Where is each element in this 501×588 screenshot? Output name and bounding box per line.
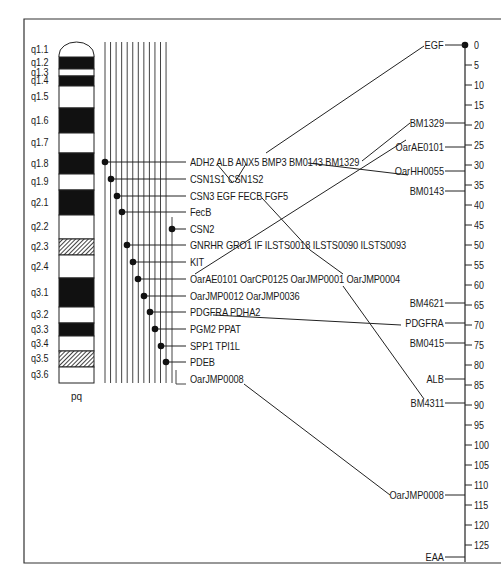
scale-tick-label: 95 — [474, 419, 484, 431]
scale-tick-label: 60 — [474, 279, 484, 291]
chromosome-band — [59, 153, 94, 174]
scale-marker-label: EAA — [426, 551, 444, 563]
chromosome-band — [59, 190, 94, 215]
chromosome-band — [59, 76, 94, 86]
gene-group-label: OarJMP0012 OarJMP0036 — [190, 290, 300, 302]
band-label: q1.6 — [31, 115, 49, 127]
locus-dot — [114, 193, 121, 200]
band-label: q2.1 — [31, 197, 49, 209]
chromosome-band — [59, 278, 94, 307]
locus-dot — [124, 242, 131, 249]
chromosome-band — [59, 215, 94, 239]
scale-marker-label: OarAE0101 — [396, 141, 444, 153]
scale-tick-label: 115 — [474, 499, 488, 511]
scale-marker-label: BM0415 — [410, 337, 444, 349]
scale-tick-label: 50 — [474, 239, 484, 251]
chromosome-band — [59, 108, 94, 133]
locus-dot — [152, 326, 159, 333]
locus-dot — [108, 176, 115, 183]
chromosome-band — [59, 57, 94, 69]
chromosome-band — [59, 351, 94, 367]
chromosome-band — [59, 174, 94, 190]
scale-marker-label: PDGFRA — [405, 317, 444, 329]
scale-tick-label: 120 — [474, 519, 489, 531]
band-label: q1.7 — [31, 137, 49, 149]
bin-vertical-lines — [105, 42, 186, 384]
gene-group-label: CSN2 — [190, 223, 214, 235]
scale-tick-label: 45 — [474, 219, 484, 231]
locus-dot — [102, 159, 109, 166]
band-label: q2.2 — [31, 221, 49, 233]
chromosome-band — [59, 133, 94, 153]
scale-tick-label: 5 — [474, 59, 479, 71]
scale-marker-label: BM1329 — [410, 117, 444, 129]
locus-dot — [169, 226, 176, 233]
scale-tick-label: 35 — [474, 179, 484, 191]
gene-group-label: PDGFRA PDHA2 — [190, 306, 260, 318]
scale-marker-label: BM4621 — [410, 297, 444, 309]
gene-group-label: CSN1S1 CSN1S2 — [190, 173, 263, 185]
band-label: q2.4 — [31, 261, 49, 273]
band-q1-1 — [59, 42, 94, 57]
scale-tick-label: 65 — [474, 299, 484, 311]
scale-tick-label: 125 — [474, 539, 489, 551]
scale-marker-label: ALB — [427, 373, 444, 385]
band-label: q3.2 — [31, 309, 49, 321]
scale-marker-label: OarJMP0008 — [390, 489, 444, 501]
chromosome-footer-label: pq — [71, 391, 82, 402]
scale-tick-label: 70 — [474, 319, 484, 331]
chromosome-band — [59, 86, 94, 108]
scale-marker-label: EGF — [425, 39, 444, 51]
gene-group-label: GNRHR GRO1 IF ILSTS0018 ILSTS0090 ILSTS0… — [190, 239, 406, 251]
scale-tick-label: 80 — [474, 359, 484, 371]
scale-tick-label: 25 — [474, 139, 484, 151]
gene-group-label: FecB — [190, 206, 211, 218]
band-label: q1.4 — [31, 75, 49, 87]
band-label: q3.3 — [31, 324, 49, 336]
scale-tick-label: 15 — [474, 99, 484, 111]
scale-tick-label: 105 — [474, 459, 489, 471]
scale-tick-label: 100 — [474, 439, 489, 451]
locus-dot — [163, 359, 170, 366]
chromosome-band — [59, 367, 94, 383]
chromosome-band — [59, 255, 94, 278]
scale-tick-label: 55 — [474, 259, 484, 271]
scale-tick-label: 0 — [474, 39, 479, 51]
locus-dot — [147, 309, 154, 316]
gene-group-label: CSN3 EGF FECB FGF5 — [190, 190, 288, 202]
locus-dot — [130, 259, 137, 266]
scale-tick-label: 110 — [474, 479, 488, 491]
scale-tick-label: 90 — [474, 399, 484, 411]
gene-group-label: SPP1 TPI1L — [190, 340, 240, 352]
band-label: q2.3 — [31, 241, 49, 253]
scale-marker-label: BM0143 — [410, 185, 444, 197]
locus-dot — [141, 293, 148, 300]
chromosome-band — [59, 69, 94, 76]
locus-dot — [135, 276, 142, 283]
band-label: q1.1 — [31, 44, 49, 56]
gene-group-label: PGM2 PPAT — [190, 323, 241, 335]
band-label: q3.1 — [31, 287, 49, 299]
correspondence-lines — [195, 46, 424, 495]
scale-axis — [445, 42, 472, 562]
scale-marker-label: BM4311 — [410, 397, 444, 409]
chromosome-band — [59, 307, 94, 323]
scale-tick-label: 20 — [474, 119, 484, 131]
scale-tick-label: 75 — [474, 339, 484, 351]
linkage-map-figure: q1.1q1.2q1.3q1.4q1.5q1.6q1.7q1.8q1.9q2.1… — [0, 0, 501, 588]
scale-marker-label: OarHH0055 — [395, 165, 444, 177]
gene-group-label: KIT — [190, 256, 204, 268]
band-label: q1.9 — [31, 176, 49, 188]
chromosome-band — [59, 336, 94, 351]
band-label: q3.6 — [31, 369, 49, 381]
scale-tick-label: 40 — [474, 199, 484, 211]
band-label: q3.5 — [31, 353, 49, 365]
scale-tick-label: 30 — [474, 159, 484, 171]
band-label: q3.4 — [31, 338, 49, 350]
chromosome-band — [59, 323, 94, 336]
gene-group-label: PDEB — [190, 356, 215, 368]
band-label: q1.5 — [31, 91, 49, 103]
gene-group-label: OarJMP0008 — [190, 373, 244, 385]
locus-dot — [158, 343, 165, 350]
gene-group-label: OarAE0101 OarCP0125 OarJMP0001 OarJMP000… — [190, 273, 400, 285]
